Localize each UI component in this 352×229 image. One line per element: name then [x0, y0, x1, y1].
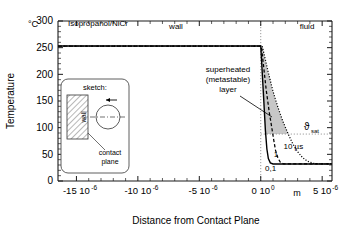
- theta-sat-symbol: ϑ: [304, 121, 310, 132]
- y-tick-label: 0: [47, 175, 53, 186]
- x-axis-unit: m: [293, 188, 301, 198]
- x-tick-label: 0 100: [251, 184, 274, 196]
- curve-label-1us: 1: [274, 150, 279, 159]
- x-tick-exponent: 0: [271, 184, 275, 191]
- svg-text:-15 10: -15 10: [63, 185, 90, 196]
- svg-text:0 10: 0 10: [251, 185, 270, 196]
- x-tick-exponent: -6: [91, 184, 97, 191]
- x-tick-label: -5 10-6: [188, 184, 217, 196]
- y-tick-label: 150: [36, 95, 53, 106]
- region-label-wall: wall: [168, 22, 183, 31]
- y-axis-unit: °C: [28, 19, 39, 29]
- figure-container: 050100150200250300 -15 10-6-10 10-6-5 10…: [0, 0, 352, 229]
- sketch-contact-plane-label-2: plane: [101, 158, 118, 166]
- svg-text:-10 10: -10 10: [124, 185, 151, 196]
- curve-label-10us: 10 µs: [283, 142, 303, 151]
- y-tick-label: 100: [36, 122, 53, 133]
- x-tick-exponent: -6: [212, 184, 218, 191]
- y-axis-tick-labels: 050100150200250300: [36, 15, 53, 186]
- region-label-fluid: fluid: [300, 22, 315, 31]
- curve-label-01us: 0,1: [265, 164, 277, 173]
- x-tick-label: 5 10-6: [313, 184, 339, 196]
- svg-text:-5 10: -5 10: [188, 185, 210, 196]
- x-tick-exponent: -6: [332, 184, 338, 191]
- sketch-inset-title: sketch:: [83, 83, 107, 92]
- y-axis-title: Temperature: [5, 72, 16, 129]
- superheated-line-1: superheated: [206, 65, 250, 74]
- x-tick-exponent: -6: [153, 184, 159, 191]
- y-tick-label: 300: [36, 15, 53, 26]
- y-tick-label: 200: [36, 69, 53, 80]
- sketch-inset: sketch: wall contact plane: [61, 79, 129, 173]
- superheated-line-3: layer: [219, 85, 237, 94]
- sketch-contact-plane-label-1: contact: [99, 149, 122, 156]
- svg-text:5 10: 5 10: [313, 185, 332, 196]
- chart-svg: 050100150200250300 -15 10-6-10 10-6-5 10…: [0, 0, 352, 229]
- y-tick-label: 50: [42, 149, 54, 160]
- x-tick-label: -15 10-6: [63, 184, 97, 196]
- material-label: Isopropanol/NiCr: [68, 19, 128, 28]
- y-tick-label: 250: [36, 42, 53, 53]
- x-axis-title: Distance from Contact Plane: [132, 215, 260, 226]
- theta-sat-subscript: sat: [311, 128, 319, 134]
- superheated-line-2: (metastable): [206, 75, 251, 84]
- sketch-wall-label: wall: [80, 111, 87, 124]
- x-tick-label: -10 10-6: [124, 184, 158, 196]
